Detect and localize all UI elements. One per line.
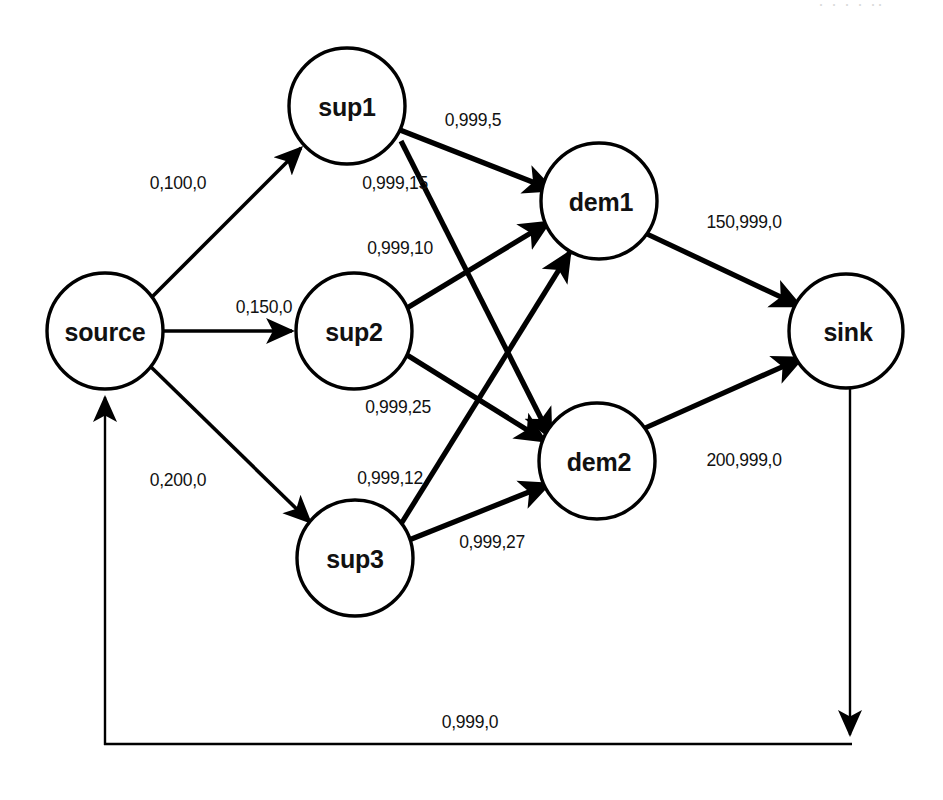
edge-source-sup2: 0,150,0 [163,297,293,331]
edge-dem1-sink: 150,999,0 [647,212,800,306]
edge-label-sup2-dem2: 0,999,25 [365,397,431,417]
node-label-source: source [65,318,146,346]
edge-label-sup2-dem1: 0,999,10 [367,238,433,258]
node-source[interactable]: source [47,273,163,389]
edge-line-dem1-sink [647,234,800,306]
node-sup1[interactable]: sup1 [289,48,405,164]
edge-label-source-sup3: 0,200,0 [150,470,207,490]
node-label-sink: sink [823,318,873,346]
node-sup2[interactable]: sup2 [296,273,412,389]
flow-network-svg: 0,100,0 0,150,0 0,200,0 0,999,5 0,999,15 [0,0,943,800]
edge-line-source-sup1 [152,148,301,297]
network-flow-diagram: · · · · ·· 0,100,0 0,150,0 [0,0,943,800]
edge-label-sup3-dem1: 0,999,12 [357,468,423,488]
edge-sink-source: 0,999,0 [104,389,852,745]
edge-sup3-dem2: 0,999,27 [409,484,549,552]
edge-label-sink-source: 0,999,0 [442,712,499,732]
edge-label-dem1-sink: 150,999,0 [706,212,782,232]
edge-label-sup1-dem1: 0,999,5 [445,110,501,130]
edge-source-sup3: 0,200,0 [150,366,310,522]
edge-line-dem2-sink [645,358,802,428]
edge-label-sup1-dem2: 0,999,15 [362,173,428,193]
node-label-dem2: dem2 [567,448,632,476]
edge-label-sup3-dem2: 0,999,27 [459,532,525,552]
edge-label-source-sup1: 0,100,0 [150,173,207,193]
edge-label-dem2-sink: 200,999,0 [706,450,782,470]
node-label-dem1: dem1 [569,188,634,216]
node-sink[interactable]: sink [789,274,903,388]
node-dem1[interactable]: dem1 [541,143,657,259]
edge-dem2-sink: 200,999,0 [645,358,802,470]
node-sup3[interactable]: sup3 [297,500,413,616]
edge-line-source-sup3 [150,366,310,522]
node-label-sup1: sup1 [318,93,376,121]
node-dem2[interactable]: dem2 [539,403,655,519]
edge-label-source-sup2: 0,150,0 [236,297,293,317]
node-label-sup3: sup3 [326,545,384,573]
edge-layer: 0,100,0 0,150,0 0,200,0 0,999,5 0,999,15 [104,110,852,745]
node-label-sup2: sup2 [325,318,383,346]
edge-source-sup1: 0,100,0 [150,148,301,297]
faded-header-fragment: · · · · ·· [819,0,885,13]
